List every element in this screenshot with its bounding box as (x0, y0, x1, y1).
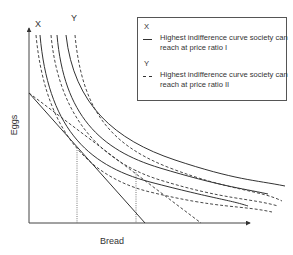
budget-line-price-ratio-i (29, 93, 145, 223)
legend: X Highest indifference curve society can… (137, 17, 287, 101)
legend-key-x: X (144, 22, 149, 32)
y-axis-label: Eggs (9, 115, 19, 136)
x-axis-label: Bread (100, 236, 124, 246)
legend-solid-line-icon (143, 39, 152, 40)
curve-label-x: X (35, 19, 41, 29)
legend-text-x: Highest indifference curve society can r… (160, 33, 288, 52)
legend-text-y: Highest indifference curve society can r… (160, 70, 288, 89)
legend-dashed-line-icon (143, 76, 152, 77)
legend-key-y: Y (144, 59, 149, 69)
curve-label-y: Y (71, 13, 77, 23)
